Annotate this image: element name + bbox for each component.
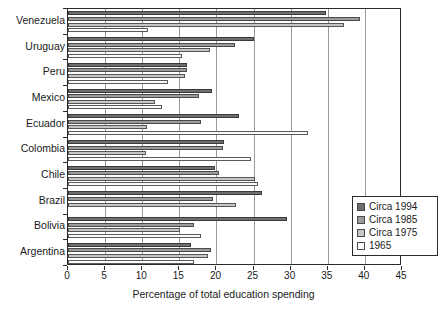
bar bbox=[68, 120, 201, 124]
bar bbox=[68, 260, 194, 264]
bar bbox=[68, 74, 185, 78]
bar bbox=[68, 151, 146, 155]
y-tick-mark bbox=[63, 59, 67, 60]
bar-chart: VenezuelaUruguayPeruMexicoEcuadorColombi… bbox=[0, 0, 447, 309]
bar bbox=[68, 182, 258, 186]
bar bbox=[68, 54, 182, 58]
legend-item-circa-1994: Circa 1994 bbox=[357, 200, 433, 213]
category-label-venezuela: Venezuela bbox=[16, 14, 65, 26]
legend-item-circa-1985: Circa 1985 bbox=[357, 213, 433, 226]
bar bbox=[68, 131, 308, 135]
legend-item-circa-1975: Circa 1975 bbox=[357, 226, 433, 239]
legend: Circa 1994 Circa 1985 Circa 1975 1965 bbox=[352, 196, 438, 256]
x-tick-label: 5 bbox=[89, 270, 119, 281]
y-tick-mark bbox=[63, 111, 67, 112]
plot-area bbox=[67, 8, 401, 265]
x-axis-title: Percentage of total education spending bbox=[0, 288, 447, 300]
x-tick-label: 35 bbox=[312, 270, 342, 281]
bar bbox=[68, 157, 251, 161]
legend-label: Circa 1975 bbox=[369, 227, 417, 238]
y-tick-mark bbox=[63, 34, 67, 35]
x-tick-label: 30 bbox=[275, 270, 305, 281]
bar bbox=[68, 203, 236, 207]
y-tick-mark bbox=[63, 8, 67, 9]
bar bbox=[68, 146, 223, 150]
bar bbox=[68, 191, 262, 195]
category-label-peru: Peru bbox=[43, 65, 65, 77]
category-label-mexico: Mexico bbox=[32, 91, 65, 103]
bar bbox=[68, 234, 201, 238]
bar bbox=[68, 80, 168, 84]
bar bbox=[68, 100, 155, 104]
bar bbox=[68, 197, 213, 201]
category-label-colombia: Colombia bbox=[21, 142, 65, 154]
bar bbox=[68, 94, 199, 98]
legend-swatch-icon bbox=[357, 242, 365, 250]
x-tick-label: 25 bbox=[238, 270, 268, 281]
bar bbox=[68, 177, 255, 181]
category-label-ecuador: Ecuador bbox=[26, 117, 65, 129]
legend-swatch-icon bbox=[357, 203, 365, 211]
x-tick-label: 45 bbox=[386, 270, 416, 281]
bar bbox=[68, 89, 212, 93]
x-tick-label: 20 bbox=[200, 270, 230, 281]
category-label-brazil: Brazil bbox=[39, 194, 65, 206]
y-tick-mark bbox=[63, 137, 67, 138]
bar bbox=[68, 63, 187, 67]
bar bbox=[68, 228, 180, 232]
y-tick-mark bbox=[63, 239, 67, 240]
legend-label: Circa 1994 bbox=[369, 201, 417, 212]
x-tick-label: 15 bbox=[163, 270, 193, 281]
y-tick-mark bbox=[63, 188, 67, 189]
y-tick-mark bbox=[63, 85, 67, 86]
bar bbox=[68, 243, 191, 247]
category-label-bolivia: Bolivia bbox=[34, 219, 65, 231]
bar bbox=[68, 11, 326, 15]
category-label-uruguay: Uruguay bbox=[25, 40, 65, 52]
bar bbox=[68, 23, 344, 27]
bar bbox=[68, 105, 162, 109]
bar bbox=[68, 217, 287, 221]
legend-label: Circa 1985 bbox=[369, 214, 417, 225]
category-label-chile: Chile bbox=[41, 168, 65, 180]
bar bbox=[68, 48, 210, 52]
bar bbox=[68, 254, 208, 258]
gridline bbox=[328, 9, 329, 264]
gridline bbox=[254, 9, 255, 264]
bar bbox=[68, 17, 360, 21]
bar bbox=[68, 166, 215, 170]
bar bbox=[68, 37, 254, 41]
x-tick-label: 40 bbox=[349, 270, 379, 281]
gridline bbox=[291, 9, 292, 264]
legend-item-1965: 1965 bbox=[357, 239, 433, 252]
y-tick-mark bbox=[63, 162, 67, 163]
gridline bbox=[216, 9, 217, 264]
bar bbox=[68, 140, 224, 144]
x-tick-label: 0 bbox=[52, 270, 82, 281]
bar bbox=[68, 43, 235, 47]
bar bbox=[68, 68, 187, 72]
legend-label: 1965 bbox=[369, 240, 391, 251]
x-tick-label: 10 bbox=[126, 270, 156, 281]
bar bbox=[68, 28, 148, 32]
legend-swatch-icon bbox=[357, 216, 365, 224]
legend-swatch-icon bbox=[357, 229, 365, 237]
bar bbox=[68, 171, 219, 175]
bar bbox=[68, 223, 194, 227]
bar bbox=[68, 248, 211, 252]
y-tick-mark bbox=[63, 214, 67, 215]
bar bbox=[68, 114, 239, 118]
bar bbox=[68, 125, 147, 129]
category-label-argentina: Argentina bbox=[20, 245, 65, 257]
